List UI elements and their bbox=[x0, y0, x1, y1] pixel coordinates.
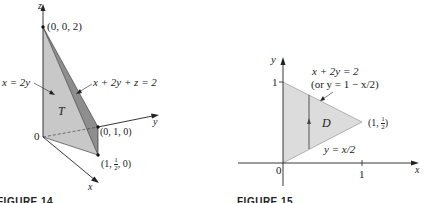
y-axis-arrow-icon bbox=[281, 57, 286, 65]
x-axis-label: x bbox=[88, 182, 92, 192]
point-top bbox=[41, 25, 44, 28]
plane-right-label: x + 2y + z = 2 bbox=[93, 77, 157, 88]
point-corner bbox=[96, 153, 99, 156]
vertex-label: (1, 12) bbox=[368, 116, 388, 131]
y-tick-1-label: 1 bbox=[272, 77, 278, 88]
pointer-arrow-icon bbox=[320, 96, 325, 101]
upper-line-label: x + 2y = 2 bbox=[312, 66, 359, 77]
z-axis-label: z bbox=[38, 1, 42, 11]
figure-14-caption: FIGURE 14 bbox=[0, 196, 53, 203]
origin-label: 0 bbox=[276, 165, 282, 176]
origin-label: 0 bbox=[34, 131, 40, 142]
upper-line-alt-label: (or y = 1 − x/2) bbox=[311, 79, 379, 90]
plane-left-label: x = 2y bbox=[2, 77, 30, 88]
region-d-label: D bbox=[322, 117, 331, 129]
lower-line-label: y = x/2 bbox=[324, 144, 355, 155]
x-tick-1-label: 1 bbox=[359, 169, 365, 180]
figure-15-caption: FIGURE 15 bbox=[237, 196, 293, 203]
region-t-label: T bbox=[58, 105, 65, 117]
x-axis-label: x bbox=[415, 165, 419, 175]
y-axis-label: y bbox=[271, 54, 276, 65]
point-y-label: (0, 1, 0) bbox=[100, 127, 132, 137]
point-top-label: (0, 0, 2) bbox=[47, 21, 82, 32]
y-axis-label: y bbox=[153, 117, 157, 127]
point-corner-label: (1, 12, 0) bbox=[101, 157, 131, 172]
